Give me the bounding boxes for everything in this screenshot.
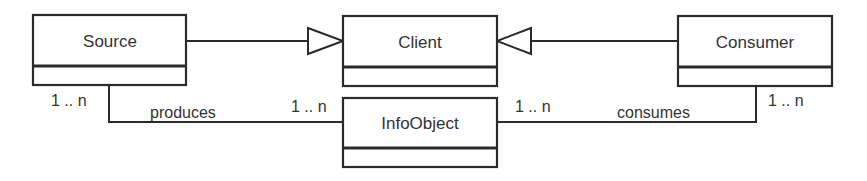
class-name: Source [83, 32, 137, 51]
association-produces: 1 .. n produces 1 .. n [51, 85, 343, 122]
class-consumer[interactable]: Consumer [678, 16, 832, 86]
multiplicity-consumer: 1 .. n [768, 92, 804, 109]
multiplicity-source: 1 .. n [51, 92, 87, 109]
class-name: InfoObject [381, 114, 459, 133]
hollow-triangle-arrow-icon [308, 28, 343, 54]
multiplicity-infoobject-left: 1 .. n [291, 98, 327, 115]
association-consumes: 1 .. n consumes 1 .. n [497, 86, 804, 122]
uml-diagram-canvas: 1 .. n produces 1 .. n 1 .. n consumes 1… [0, 0, 867, 181]
class-name: Client [398, 33, 442, 52]
generalization-consumer-client [497, 28, 678, 54]
class-source[interactable]: Source [33, 15, 186, 85]
multiplicity-infoobject-right: 1 .. n [515, 98, 551, 115]
association-label-consumes: consumes [617, 104, 690, 121]
class-name: Consumer [716, 33, 795, 52]
generalization-source-client [186, 28, 343, 54]
hollow-triangle-arrow-icon [497, 28, 531, 54]
class-infoobject[interactable]: InfoObject [343, 98, 497, 167]
class-client[interactable]: Client [343, 16, 497, 86]
association-label-produces: produces [150, 104, 216, 121]
